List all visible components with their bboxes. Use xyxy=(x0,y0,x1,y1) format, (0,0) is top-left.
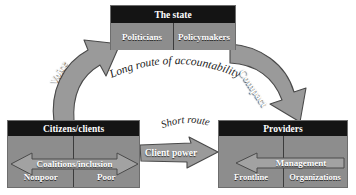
citizens-body: Coalitions/inclusion Nonpoor Poor xyxy=(8,136,139,187)
short-route-text: Short route xyxy=(159,114,211,130)
providers-cells: Frontline Organizations xyxy=(219,167,347,187)
svg-text:Short route: Short route xyxy=(159,114,211,130)
providers-header: Providers xyxy=(219,121,347,136)
cell-poor: Poor xyxy=(74,167,140,187)
citizens-header: Citizens/clients xyxy=(8,121,139,136)
client-power-arrow: Client power xyxy=(139,137,219,169)
providers-body: Management Frontline Organizations xyxy=(219,136,347,187)
voice-arrow xyxy=(48,38,134,122)
cell-organizations: Organizations xyxy=(283,167,347,187)
the-state-header: The state xyxy=(111,6,235,23)
cell-nonpoor: Nonpoor xyxy=(8,167,74,187)
node-the-state[interactable]: The state Politicians Policymakers xyxy=(110,5,236,50)
the-state-cells: Politicians Policymakers xyxy=(111,23,235,50)
citizens-cells: Nonpoor Poor xyxy=(8,167,139,187)
cell-frontline: Frontline xyxy=(219,167,283,187)
cell-politicians: Politicians xyxy=(111,23,173,50)
the-state-body: Politicians Policymakers xyxy=(111,23,235,50)
compact-arrow xyxy=(228,38,314,122)
accountability-diagram: Long route of accountability Short route… xyxy=(0,0,356,195)
node-providers[interactable]: Providers Management Frontline Organizat… xyxy=(218,120,348,188)
node-citizens-clients[interactable]: Citizens/clients Coalitions/inclusion No… xyxy=(7,120,140,188)
cell-policymakers: Policymakers xyxy=(173,23,235,50)
